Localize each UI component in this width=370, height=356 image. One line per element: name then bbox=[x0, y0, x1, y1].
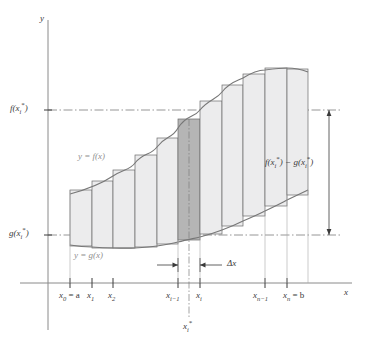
riemann-rectangle bbox=[70, 190, 92, 246]
x0-suffix: = a bbox=[66, 290, 80, 300]
riemann-rectangle bbox=[200, 101, 222, 234]
y-axis-label: y bbox=[40, 14, 44, 23]
riemann-rectangle bbox=[287, 69, 308, 195]
g-star-main: g(x bbox=[9, 228, 21, 238]
riemann-rectangle bbox=[265, 68, 287, 206]
riemann-rectangle bbox=[113, 170, 135, 248]
x-axis-label: x bbox=[344, 288, 348, 297]
delta-x-left-arrowhead bbox=[173, 263, 179, 268]
height-mid: ) − g(x bbox=[280, 157, 305, 167]
g-star-close: ) bbox=[26, 228, 29, 238]
delta-x-right-arrowhead bbox=[200, 263, 206, 268]
curve-label-g: y = g(x) bbox=[74, 251, 103, 260]
area-between-curves-figure: y x f(xi*) g(xi*) x0 = a x1 x2 xi−1 xi x… bbox=[0, 0, 370, 356]
x1-sub: 1 bbox=[91, 295, 94, 302]
riemann-rectangle bbox=[135, 155, 157, 247]
height-difference-label: f(xi*) − g(xi*) bbox=[265, 158, 313, 167]
delta-x-label: Δx bbox=[227, 259, 236, 268]
curve-label-f: y = f(x) bbox=[78, 152, 105, 161]
sample-sup: * bbox=[189, 319, 193, 327]
x-tick-label-xn: xn = b bbox=[283, 291, 304, 300]
sample-point-label: xi* bbox=[183, 322, 192, 331]
diagram-canvas bbox=[0, 0, 370, 356]
height-measure-group bbox=[327, 110, 332, 235]
riemann-rectangle bbox=[92, 181, 113, 248]
x-tick-label-x1: x1 bbox=[87, 291, 94, 300]
height-measure-arrowhead-bottom bbox=[327, 229, 332, 235]
height-end: ) bbox=[310, 157, 313, 167]
xi-1-sub: i−1 bbox=[170, 295, 179, 302]
x-tick-label-xi: xi bbox=[196, 291, 202, 300]
height-main: f(x bbox=[265, 157, 275, 167]
xn-1-sub: n−1 bbox=[257, 295, 268, 302]
x-tick-label-x0: x0 = a bbox=[59, 291, 80, 300]
f-star-main: f(x bbox=[10, 103, 20, 113]
riemann-rectangle bbox=[222, 85, 243, 226]
height-measure-arrowhead-top bbox=[327, 110, 332, 116]
xn-suffix: = b bbox=[290, 290, 304, 300]
x-tick-label-xi-1: xi−1 bbox=[166, 291, 179, 300]
delta-x-measure-group bbox=[157, 258, 222, 272]
x2-sub: 2 bbox=[112, 295, 115, 302]
y-tick-label-g-star: g(xi*) bbox=[9, 229, 29, 238]
y-tick-label-f-star: f(xi*) bbox=[10, 104, 28, 113]
f-star-close: ) bbox=[25, 103, 28, 113]
riemann-rectangle bbox=[157, 138, 178, 244]
riemann-rectangle bbox=[243, 74, 265, 216]
x-tick-label-xn-1: xn−1 bbox=[253, 291, 268, 300]
xi-sub: i bbox=[200, 295, 202, 302]
x-tick-label-x2: x2 bbox=[108, 291, 115, 300]
